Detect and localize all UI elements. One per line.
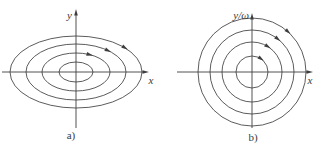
panel-b-x-axis-label: x [307,74,313,86]
panel-b-y-axis-label: y/ω [232,9,249,21]
trajectory-arrow-icon [274,35,280,40]
y-axis-arrow-icon [250,13,254,20]
trajectory-arrow-icon [104,47,111,51]
trajectory-arrow-icon [86,52,93,56]
panel-a [2,9,149,128]
y-axis-arrow-icon [74,9,78,16]
trajectory-arrow-icon [257,55,263,60]
trajectory-arrow-icon [264,43,271,48]
panel-a-x-axis-label: x [148,74,154,86]
panel-a-caption: a) [67,129,76,142]
panel-b-caption: b) [248,131,258,144]
trajectory-arrow-icon [121,45,128,50]
panel-a-y-axis-label: y [66,9,72,21]
phase-portrait-diagram: y x a) y/ω x b) [0,0,323,149]
figure: y x a) y/ω x b) [0,0,323,149]
panel-b [177,13,313,128]
